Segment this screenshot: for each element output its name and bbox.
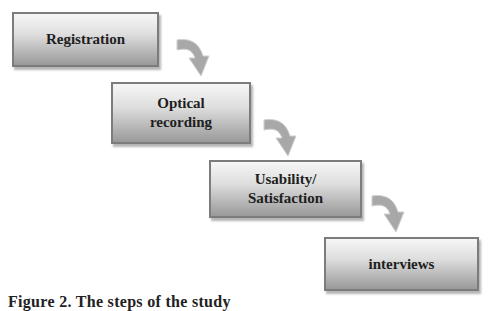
step-label: interviews — [369, 255, 435, 274]
curved-down-arrow-icon — [175, 36, 213, 78]
step-interviews: interviews — [324, 237, 479, 291]
curved-down-arrow-icon — [262, 116, 300, 158]
curved-down-arrow-icon — [370, 192, 408, 234]
step-label: Registration — [46, 30, 125, 49]
step-label: Optical recording — [150, 94, 212, 132]
step-optical-recording: Optical recording — [111, 82, 251, 144]
figure-caption: Figure 2. The steps of the study — [8, 293, 231, 311]
step-label: Usability/ Satisfaction — [248, 170, 323, 208]
step-registration: Registration — [12, 12, 159, 67]
step-usability-satisfaction: Usability/ Satisfaction — [209, 160, 362, 218]
